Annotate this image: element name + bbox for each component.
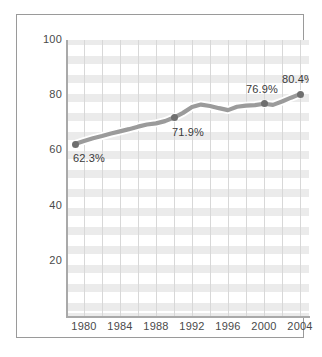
data-point-marker — [297, 91, 304, 98]
x-axis-tick-labels: 1980198419881992199620002004 — [66, 320, 310, 338]
data-point-marker — [261, 100, 268, 107]
x-axis-tick-label: 1984 — [107, 320, 132, 332]
x-axis-line — [66, 316, 310, 318]
x-axis-tick-label: 1992 — [179, 320, 204, 332]
y-axis-tick-label: 60 — [18, 143, 62, 155]
y-axis-tick-label: 80 — [18, 88, 62, 100]
line-series — [66, 40, 309, 316]
data-value-label: 62.3% — [73, 152, 105, 164]
plot-area: 62.3%71.9%76.9%80.4% — [66, 40, 309, 316]
y-axis-tick-label: 20 — [18, 254, 62, 266]
chart-frame: 10080604020 62.3%71.9%76.9%80.4% 1980198… — [16, 14, 304, 338]
y-axis-line — [66, 40, 68, 317]
y-axis-tick-label: 100 — [18, 33, 62, 45]
x-axis-tick-label: 2000 — [251, 320, 276, 332]
x-axis-tick-label: 1996 — [215, 320, 240, 332]
x-axis-tick-label: 1980 — [71, 320, 96, 332]
data-point-marker — [171, 114, 178, 121]
data-point-marker — [72, 141, 79, 148]
data-value-label: 80.4% — [282, 73, 309, 85]
y-axis-tick-label: 40 — [18, 199, 62, 211]
x-axis-tick-label: 1988 — [143, 320, 168, 332]
data-value-label: 71.9% — [172, 126, 204, 138]
x-axis-tick-label: 2004 — [287, 320, 312, 332]
y-axis-tick-labels: 10080604020 — [17, 15, 62, 339]
data-value-label: 76.9% — [246, 83, 278, 95]
